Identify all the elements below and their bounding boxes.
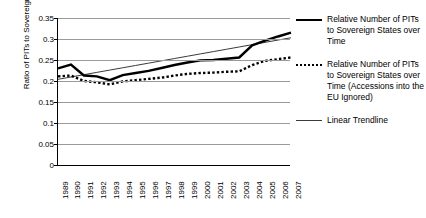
legend-label-dotted: Relative Number of PITs to Sovereign Sta… [327,59,426,103]
x-axis-tick-label: 1998 [177,181,186,199]
series-lines [58,18,291,165]
x-axis-tick-label: 1991 [86,181,95,199]
legend-entry-trendline: Linear Trendline [296,115,426,127]
y-axis-tickmark [54,60,58,61]
y-axis-tick-label: 0.25 [38,56,54,65]
x-axis-tick-labels: 1989199019911992199319941995199619971998… [57,165,290,218]
gridline [58,18,290,19]
legend-entry-solid: Relative Number of PITs to Sovereign Sta… [296,14,426,47]
x-axis-tick-label: 2001 [216,181,225,199]
dotted-line-key-icon [296,59,322,71]
legend-label-solid: Relative Number of PITs to Sovereign Sta… [327,14,426,47]
chart-legend: Relative Number of PITs to Sovereign Sta… [296,14,426,139]
x-axis-tick-label: 2002 [229,181,238,199]
y-axis-tick-label: 0.05 [38,140,54,149]
gridline [58,123,290,124]
gridline [58,39,290,40]
y-axis-tick-label: 0.1 [43,119,54,128]
x-axis-tick-label: 1992 [99,181,108,199]
y-axis-tickmark [54,18,58,19]
y-axis-tick-label: 0.2 [43,77,54,86]
x-axis-tick-label: 2007 [294,181,303,199]
x-axis-tick-label: 1995 [138,181,147,199]
x-axis-tick-label: 1997 [164,181,173,199]
x-axis-tick-label: 1999 [190,181,199,199]
x-axis-tick-label: 2003 [242,181,251,199]
y-axis-tickmark [54,144,58,145]
y-axis-tickmark [54,81,58,82]
x-axis-tick-label: 2004 [255,181,264,199]
plot-area [57,18,290,165]
x-axis-tick-label: 1994 [125,181,134,199]
thin-line-key-icon [296,115,322,127]
y-axis-tickmark [54,123,58,124]
y-axis-tick-label: 0.35 [38,14,54,23]
y-axis-tick-label: 0.3 [43,35,54,44]
y-axis-tickmark [54,39,58,40]
gridline [58,60,290,61]
gridline [58,81,290,82]
y-axis-tick-label: 0.15 [38,98,54,107]
x-axis-tick-label: 1993 [112,181,121,199]
x-axis-tick-label: 2005 [268,181,277,199]
x-axis-tick-label: 2000 [203,181,212,199]
gridline [58,144,290,145]
solid-line-key-icon [296,14,322,26]
gridline [58,102,290,103]
x-axis-tick-label: 1989 [61,181,70,199]
x-axis-tick-label: 2006 [281,181,290,199]
legend-label-trendline: Linear Trendline [327,115,388,126]
x-axis-tick-label: 1990 [73,181,82,199]
line-chart: Ratio of PITs to Sovereign States 00.050… [0,0,426,218]
x-axis-tick-label: 1996 [151,181,160,199]
legend-entry-dotted: Relative Number of PITs to Sovereign Sta… [296,59,426,103]
y-axis-tick-labels: 00.050.10.150.20.250.30.35 [22,0,54,218]
y-axis-tickmark [54,102,58,103]
